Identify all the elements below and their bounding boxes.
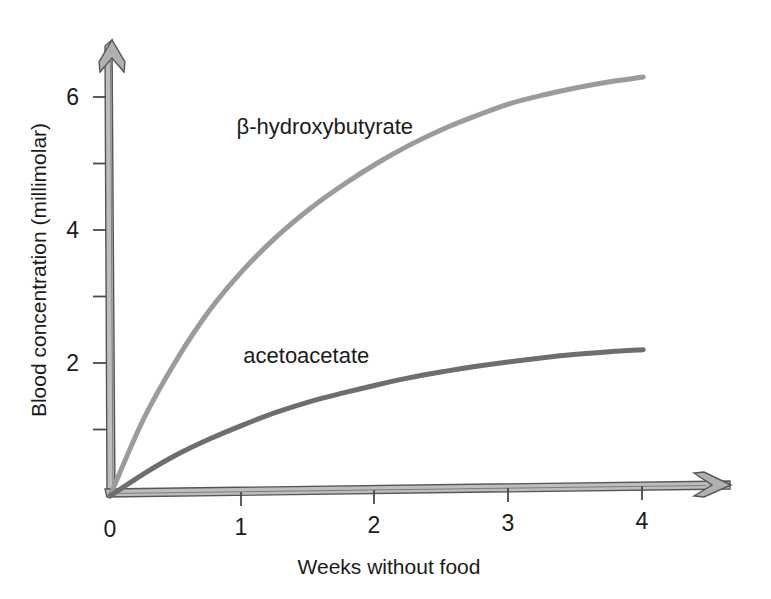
x-tick-label-0: 0 (104, 516, 117, 542)
y-tick-label-4: 4 (66, 217, 79, 243)
x-axis (105, 472, 731, 497)
y-axis-title: Blood concentration (millimolar) (27, 123, 50, 417)
series-annotation-beta-hydroxybutyrate: β-hydroxybutyrate (237, 114, 414, 139)
y-axis-ticks (93, 97, 106, 430)
x-tick-label-4: 4 (636, 508, 649, 534)
chart-canvas: 2 4 6 0 1 2 3 4 Blood concentration (mil… (0, 0, 771, 599)
series-curves (110, 77, 643, 496)
series-line-acetoacetate (110, 350, 643, 496)
x-tick-label-1: 1 (235, 514, 248, 540)
chart-figure: 2 4 6 0 1 2 3 4 Blood concentration (mil… (0, 0, 771, 599)
y-tick-label-6: 6 (66, 84, 79, 110)
y-axis (99, 40, 125, 496)
y-tick-label-2: 2 (66, 350, 79, 376)
series-annotation-acetoacetate: acetoacetate (243, 343, 369, 368)
x-tick-label-3: 3 (502, 510, 515, 536)
y-axis-shaft (105, 40, 115, 496)
series-line-beta-hydroxybutyrate (110, 77, 643, 496)
x-axis-title: Weeks without food (298, 555, 481, 578)
x-tick-label-2: 2 (368, 512, 381, 538)
